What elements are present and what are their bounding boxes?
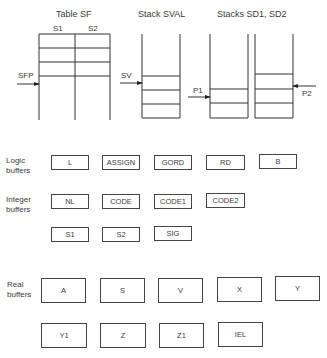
buffer-code1: CODE1	[154, 194, 192, 209]
real-label-line2: buffers	[7, 290, 31, 300]
buffer-rd: RD	[206, 155, 245, 170]
column-s1: S1	[53, 24, 63, 33]
buffer-s2: S2	[102, 227, 140, 242]
buffer-code2: CODE2	[206, 193, 245, 208]
table-sf-title: Table SF	[56, 9, 92, 19]
column-s2: S2	[88, 24, 98, 33]
buffer-nl: NL	[51, 194, 89, 209]
buffer-v: V	[158, 278, 203, 303]
buffer-s: S	[100, 278, 145, 303]
logic-buffers-label: Logic buffers	[6, 156, 30, 176]
buffer-a: A	[41, 278, 86, 303]
buffer-gord: GORD	[154, 155, 192, 170]
logic-label-line1: Logic	[6, 156, 30, 166]
pointer-p1: P1	[193, 86, 203, 95]
stack-sval-title: Stack SVAL	[138, 9, 185, 19]
integer-buffers-label: Integer buffers	[6, 195, 31, 215]
buffer-iel: IEL	[218, 322, 263, 347]
buffer-l: L	[51, 155, 89, 170]
logic-label-line2: buffers	[6, 166, 30, 176]
integer-label-line1: Integer	[6, 195, 31, 205]
stacks-sd-title: Stacks SD1, SD2	[217, 9, 287, 19]
buffer-z: Z	[100, 323, 146, 348]
real-buffers-label: Real buffers	[7, 280, 31, 300]
buffer-s1: S1	[51, 227, 89, 242]
structures-drawing	[0, 0, 327, 358]
buffer-y: Y	[275, 276, 320, 301]
buffer-z1: Z1	[159, 323, 204, 348]
pointer-p2: P2	[302, 89, 312, 98]
integer-label-line2: buffers	[6, 205, 31, 215]
buffer-b: B	[259, 154, 297, 169]
stack-sd2	[255, 34, 316, 118]
pointer-sfp: SFP	[18, 71, 34, 80]
buffer-code: CODE	[102, 194, 140, 209]
buffer-assign: ASSIGN	[102, 155, 140, 170]
stack-sd1	[188, 34, 248, 118]
buffer-x: X	[217, 277, 262, 302]
real-label-line1: Real	[7, 280, 31, 290]
pointer-sv: SV	[121, 71, 132, 80]
buffer-y1: Y1	[41, 323, 87, 348]
buffer-sig: SIG	[154, 226, 192, 241]
